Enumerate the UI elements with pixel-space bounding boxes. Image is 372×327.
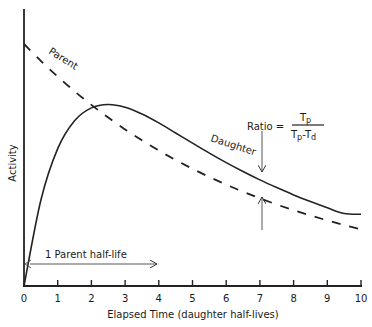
ratio-numerator: Tp — [299, 112, 311, 125]
x-tick-label: 5 — [189, 293, 195, 304]
x-tick-label: 9 — [324, 293, 330, 304]
x-tick-label: 7 — [257, 293, 263, 304]
x-ticks: 012345678910 — [21, 280, 368, 304]
half-life-annotation: 1 Parent half-life — [25, 249, 157, 268]
half-life-label: 1 Parent half-life — [45, 249, 127, 260]
parent-label: Parent — [47, 45, 80, 71]
y-axis-label: Activity — [7, 144, 18, 181]
x-tick-label: 3 — [122, 293, 128, 304]
x-tick-label: 6 — [223, 293, 229, 304]
x-tick-label: 0 — [21, 293, 27, 304]
ratio-prefix: Ratio = — [247, 121, 284, 132]
x-tick-label: 4 — [156, 293, 162, 304]
ratio-annotation: Ratio = Tp Tp-Td — [247, 112, 324, 230]
x-tick-label: 8 — [290, 293, 296, 304]
x-tick-label: 10 — [355, 293, 368, 304]
ratio-denominator: Tp-Td — [290, 129, 316, 142]
daughter-label: Daughter — [209, 132, 258, 157]
x-tick-label: 2 — [88, 293, 94, 304]
x-axis-label: Elapsed Time (daughter half-lives) — [107, 309, 279, 320]
x-tick-label: 1 — [55, 293, 61, 304]
decay-chart: 012345678910 Parent Daughter Ratio = Tp … — [0, 0, 372, 327]
